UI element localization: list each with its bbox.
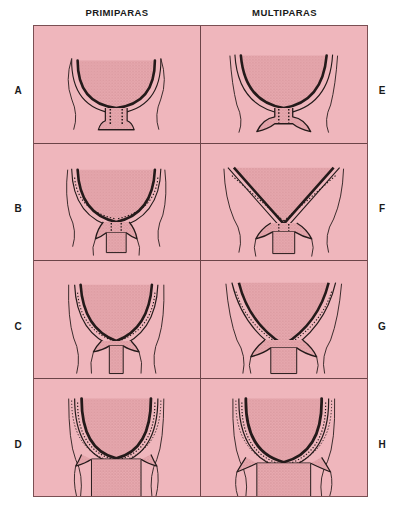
panel-C: [34, 261, 201, 379]
panel-label-H: H: [372, 439, 392, 450]
panel-E: [201, 26, 368, 144]
panel-grid: [33, 25, 368, 497]
panel-label-C: C: [8, 321, 28, 332]
column-header-primiparas: PRIMIPARAS: [33, 7, 201, 18]
illustration-B: [34, 144, 200, 261]
illustration-E: [201, 26, 368, 143]
illustration-H: [201, 379, 368, 497]
panel-label-G: G: [372, 321, 392, 332]
illustration-G: [201, 261, 368, 378]
column-header-multiparas: MULTIPARAS: [201, 7, 368, 18]
panel-D: [34, 379, 201, 497]
panel-label-F: F: [372, 203, 392, 214]
panel-B: [34, 144, 201, 262]
illustration-F: [201, 144, 368, 261]
illustration-C: [34, 261, 200, 378]
panel-label-A: A: [8, 85, 28, 96]
illustration-D: [34, 379, 200, 497]
panel-F: [201, 144, 368, 262]
panel-H: [201, 379, 368, 497]
panel-A: [34, 26, 201, 144]
cervical-effacement-figure: PRIMIPARAS MULTIPARAS: [0, 0, 399, 518]
panel-label-E: E: [372, 85, 392, 96]
panel-label-D: D: [8, 439, 28, 450]
illustration-A: [34, 26, 200, 143]
panel-G: [201, 261, 368, 379]
panel-label-B: B: [8, 203, 28, 214]
